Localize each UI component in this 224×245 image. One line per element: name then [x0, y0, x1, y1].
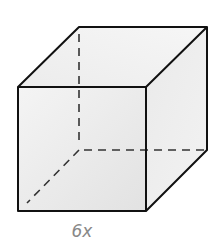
side-length-label: 6x [72, 221, 94, 241]
cube-diagram: 6x [0, 0, 224, 245]
